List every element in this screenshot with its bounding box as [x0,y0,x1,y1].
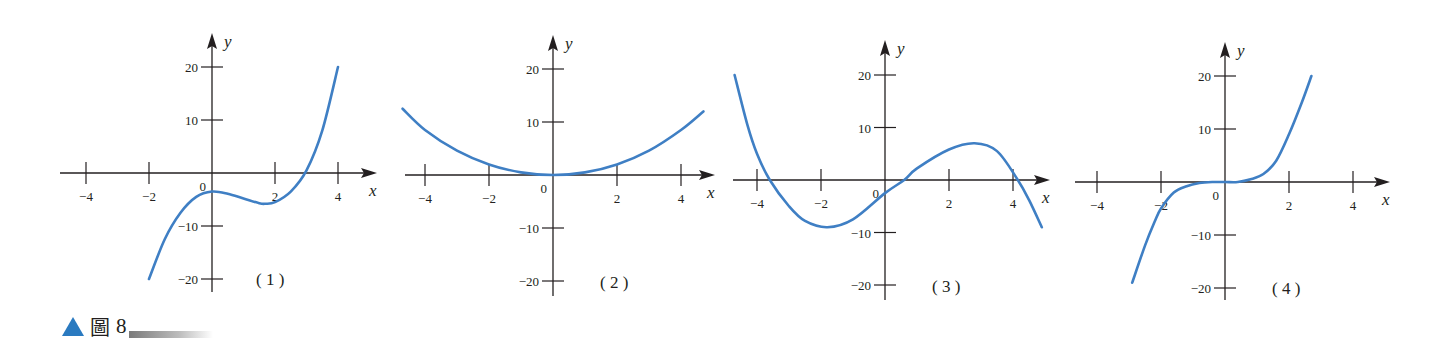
x-axis-label: x [706,183,715,202]
x-tick-label: 2 [614,191,621,206]
function-curve [1132,76,1311,283]
x-tick-label: −2 [814,196,828,211]
x-tick-label: 4 [335,189,342,204]
caption-underline-bar [129,331,213,338]
x-tick-label: 4 [1010,196,1017,211]
x-tick-label: 4 [1350,198,1357,213]
x-tick-label: −4 [1090,198,1104,213]
function-curve [735,75,1042,227]
y-tick-label: −10 [178,219,198,234]
origin-label: 0 [1213,188,1220,203]
x-axis-label: x [1041,188,1050,207]
figure-caption: 圖 8 [62,312,213,340]
y-tick-label: −10 [519,221,539,236]
x-tick-label: −2 [142,189,156,204]
x-axis-label: x [1381,190,1390,209]
y-tick-label: 20 [858,68,871,83]
x-tick-label: 2 [946,196,953,211]
y-tick-label: 20 [526,62,539,77]
graph-panel-4: −4−2242010−10−200xy( 4 ) [1075,41,1390,300]
figure-8-graphs: −4−2242010−10−200xy( 1 ) −4−2242010−10−2… [0,0,1448,348]
x-tick-label: 2 [1286,198,1293,213]
graph-panel-1: −4−2242010−10−200xy( 1 ) [60,32,377,292]
y-tick-label: 20 [1198,69,1211,84]
y-tick-label: 10 [526,115,539,130]
y-tick-label: −20 [851,278,871,293]
y-tick-label: −20 [519,274,539,289]
y-axis-label: y [895,39,905,58]
figure-number: 8 [116,314,127,339]
graph-panel-2: −4−2242010−10−200xy( 2 ) [403,34,715,296]
figure-char: 圖 [90,312,110,341]
x-tick-label: −4 [418,191,432,206]
y-tick-label: 20 [185,60,198,75]
y-tick-label: −20 [1191,281,1211,296]
panel-label: ( 3 ) [932,277,960,296]
y-tick-label: −20 [178,272,198,287]
y-axis-label: y [222,32,232,51]
y-tick-label: 10 [185,113,198,128]
x-tick-label: −2 [482,191,496,206]
panel-label: ( 4 ) [1272,279,1300,298]
x-tick-label: −4 [750,196,764,211]
y-tick-label: −10 [1191,228,1211,243]
y-tick-label: −10 [851,226,871,241]
y-tick-label: 10 [858,121,871,136]
panel-label: ( 2 ) [600,273,628,292]
x-tick-label: 4 [678,191,685,206]
origin-label: 0 [541,181,548,196]
y-axis-label: y [1235,41,1245,60]
x-tick-label: −4 [79,189,93,204]
triangle-marker-icon [62,317,84,336]
x-axis-label: x [368,181,377,200]
panel-label: ( 1 ) [256,270,284,289]
y-axis-label: y [563,34,573,53]
y-tick-label: 10 [1198,122,1211,137]
graph-panel-3: −4−2242010−10−200xy( 3 ) [733,39,1050,300]
